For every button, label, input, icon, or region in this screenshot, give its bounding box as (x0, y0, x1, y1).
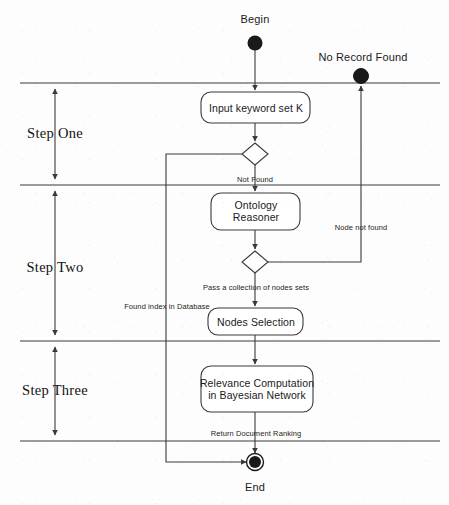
step-label-step-one: Step One (27, 125, 83, 142)
no-record-found-node-label: No Record Found (318, 51, 407, 64)
final-node-no-record-found (354, 69, 369, 84)
activity-label-input-keyword-set: Input keyword set K (209, 102, 303, 114)
activity-label-relevance-computation: Relevance Computation in Bayesian Networ… (200, 377, 314, 402)
step-label-step-two: Step Two (26, 259, 83, 276)
edge-label-found-index: Found index in Database (124, 303, 210, 312)
edge-label-node-not-found: Node not found (335, 224, 388, 233)
activity-line: Reasoner (233, 211, 279, 223)
end-node-label: End (245, 481, 265, 494)
decision-diamond-record-found (242, 143, 268, 165)
activity-line: in Bayesian Network (200, 389, 314, 401)
edge-label-not-found: Not Found (237, 176, 273, 185)
edge-label-pass-collection: Pass a collection of nodes sets (203, 284, 309, 293)
final-node-end (247, 454, 264, 471)
decision-diamond-node-found (242, 251, 268, 273)
activity-label-ontology-reasoner: Ontology Reasoner (233, 199, 279, 224)
activity-label-nodes-selection: Nodes Selection (217, 316, 295, 328)
edge-label-return-ranking: Return Document Ranking (211, 430, 302, 439)
initial-node-begin (248, 36, 263, 51)
begin-node-label: Begin (241, 13, 270, 26)
activity-line: Ontology (233, 199, 279, 211)
activity-line: Relevance Computation (200, 377, 314, 389)
activity-diagram-canvas: Begin No Record Found End Input keyword … (0, 0, 449, 505)
activity-line: Nodes Selection (217, 316, 295, 328)
activity-line: Input keyword set K (209, 102, 303, 114)
step-label-step-three: Step Three (22, 382, 88, 399)
